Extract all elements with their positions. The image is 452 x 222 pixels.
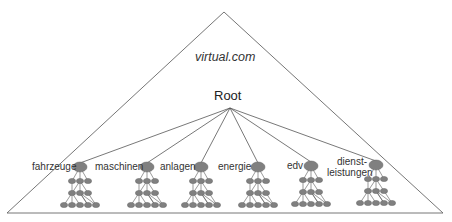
leaf-node bbox=[181, 202, 188, 207]
leaf-node bbox=[68, 202, 75, 207]
root-label: Root bbox=[214, 88, 241, 103]
domain-label: virtual.com bbox=[195, 50, 255, 64]
leaf-node bbox=[388, 200, 395, 205]
category-label-maschinen: maschinen bbox=[95, 161, 143, 172]
leaf-node bbox=[315, 189, 322, 194]
leaf-node bbox=[323, 201, 330, 206]
leaf-node bbox=[151, 202, 158, 207]
leaf-node bbox=[189, 190, 196, 195]
leaf-node bbox=[364, 200, 371, 205]
leaf-node bbox=[205, 190, 212, 195]
category-label-fahrzeuge: fahrzeuge bbox=[32, 161, 76, 172]
leaf-node bbox=[151, 190, 158, 195]
leaf-node bbox=[372, 176, 379, 181]
leaf-node bbox=[205, 202, 212, 207]
leaf-node bbox=[238, 202, 245, 207]
leaf-node bbox=[299, 201, 306, 206]
leaf-node bbox=[189, 178, 196, 183]
leaf-node bbox=[76, 178, 83, 183]
leaf-node bbox=[246, 190, 253, 195]
leaf-node bbox=[68, 190, 75, 195]
pyramid-diagram bbox=[0, 0, 452, 222]
category-node bbox=[194, 162, 208, 172]
leaf-node bbox=[262, 202, 269, 207]
leaf-node bbox=[84, 190, 91, 195]
leaf-node bbox=[315, 201, 322, 206]
leaf-node bbox=[254, 178, 261, 183]
leaf-node bbox=[364, 188, 371, 193]
leaf-node bbox=[135, 178, 142, 183]
leaf-node bbox=[307, 177, 314, 182]
leaf-node bbox=[76, 202, 83, 207]
leaf-node bbox=[68, 178, 75, 183]
leaf-node bbox=[197, 190, 204, 195]
leaf-node bbox=[143, 178, 150, 183]
leaf-node bbox=[254, 190, 261, 195]
category-node bbox=[251, 162, 265, 172]
category-node bbox=[304, 161, 318, 171]
leaf-node bbox=[60, 202, 67, 207]
leaf-node bbox=[307, 189, 314, 194]
leaf-node bbox=[380, 188, 387, 193]
leaf-node bbox=[380, 176, 387, 181]
category-label-edv: edv bbox=[287, 160, 303, 171]
leaf-node bbox=[291, 201, 298, 206]
leaf-node bbox=[189, 202, 196, 207]
leaf-node bbox=[307, 201, 314, 206]
leaf-node bbox=[315, 177, 322, 182]
leaf-node bbox=[143, 190, 150, 195]
leaf-node bbox=[246, 178, 253, 183]
leaf-node bbox=[356, 200, 363, 205]
leaf-node bbox=[299, 189, 306, 194]
leaf-node bbox=[84, 178, 91, 183]
leaf-node bbox=[262, 178, 269, 183]
leaf-node bbox=[213, 202, 220, 207]
leaf-node bbox=[143, 202, 150, 207]
leaf-node bbox=[372, 200, 379, 205]
category-label-anlagen: anlagen bbox=[160, 161, 196, 172]
leaf-node bbox=[270, 202, 277, 207]
leaf-node bbox=[205, 178, 212, 183]
leaf-node bbox=[76, 190, 83, 195]
leaf-node bbox=[84, 202, 91, 207]
leaf-node bbox=[246, 202, 253, 207]
category-label-energie: energie bbox=[218, 161, 251, 172]
category-label-leistungen: leistungen bbox=[327, 167, 373, 178]
leaf-node bbox=[92, 202, 99, 207]
leaf-node bbox=[159, 202, 166, 207]
leaf-node bbox=[135, 190, 142, 195]
leaf-node bbox=[197, 178, 204, 183]
leaf-node bbox=[299, 177, 306, 182]
leaf-node bbox=[197, 202, 204, 207]
leaf-node bbox=[254, 202, 261, 207]
leaf-node bbox=[262, 190, 269, 195]
leaf-node bbox=[372, 188, 379, 193]
leaf-node bbox=[127, 202, 134, 207]
leaf-node bbox=[135, 202, 142, 207]
category-label-dienst: dienst- bbox=[337, 156, 367, 167]
leaf-node bbox=[380, 200, 387, 205]
leaf-node bbox=[151, 178, 158, 183]
